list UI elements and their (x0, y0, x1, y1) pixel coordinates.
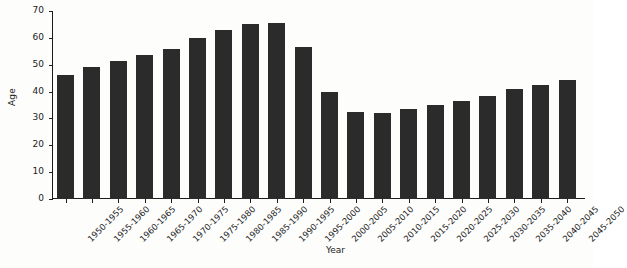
bar (532, 85, 549, 199)
bar (559, 80, 576, 200)
y-tick-label: 10 (14, 167, 44, 176)
x-tick-mark (118, 199, 119, 203)
y-tick-label: 0 (14, 194, 44, 203)
x-tick-mark (435, 199, 436, 203)
x-tick-mark (303, 199, 304, 203)
x-tick-mark (171, 199, 172, 203)
bar (321, 92, 338, 199)
bar (163, 49, 180, 199)
x-tick-mark (541, 199, 542, 203)
bar (479, 96, 496, 199)
bar (215, 30, 232, 199)
bar (295, 47, 312, 199)
x-tick-mark (250, 199, 251, 203)
x-tick-mark (198, 199, 199, 203)
bar (374, 113, 391, 199)
y-axis-title: Age (7, 77, 17, 117)
bar (400, 109, 417, 199)
x-tick-mark (567, 199, 568, 203)
bar (110, 61, 127, 199)
y-tick-label: 70 (14, 6, 44, 15)
x-tick-mark (330, 199, 331, 203)
bar (453, 101, 470, 199)
x-tick-mark (277, 199, 278, 203)
bar (347, 112, 364, 199)
y-tick-label: 30 (14, 113, 44, 122)
bar (268, 23, 285, 199)
x-tick-mark (488, 199, 489, 203)
x-tick-mark (409, 199, 410, 203)
y-tick-label: 20 (14, 140, 44, 149)
bar (427, 105, 444, 199)
plot-area (52, 11, 585, 199)
bar (189, 38, 206, 199)
y-tick-label: 60 (14, 33, 44, 42)
bar (506, 89, 523, 199)
x-tick-mark (462, 199, 463, 203)
x-tick-mark (356, 199, 357, 203)
x-axis-title: Year (326, 245, 345, 255)
x-tick-mark (224, 199, 225, 203)
y-tick-label: 50 (14, 60, 44, 69)
x-tick-mark (66, 199, 67, 203)
x-tick-mark (92, 199, 93, 203)
bar (136, 55, 153, 199)
x-tick-mark (145, 199, 146, 203)
x-tick-mark (382, 199, 383, 203)
y-tick-label: 40 (14, 87, 44, 96)
x-tick-mark (514, 199, 515, 203)
bar (242, 24, 259, 199)
bar (83, 67, 100, 199)
bar (57, 75, 74, 199)
